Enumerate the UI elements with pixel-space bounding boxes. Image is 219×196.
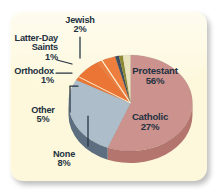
label-other-pct: 5%: [22, 115, 64, 124]
pie-chart: [0, 0, 219, 196]
label-catholic: Catholic 27%: [120, 112, 180, 132]
pie-chart-svg: [0, 0, 219, 196]
label-orthodox: Orthodox 1%: [2, 67, 54, 86]
label-protestant: Protestant 56%: [122, 66, 188, 86]
label-jewish-pct: 2%: [56, 25, 104, 34]
label-latter-day-saints: Latter-Day Saints 1%: [6, 34, 58, 62]
label-none: None 8%: [43, 150, 85, 169]
label-other: Other 5%: [22, 106, 64, 125]
figure-canvas: Jewish 2% Latter-Day Saints 1% Orthodox …: [0, 0, 219, 196]
label-orthodox-pct: 1%: [2, 76, 54, 85]
label-catholic-pct: 27%: [120, 122, 180, 132]
label-protestant-pct: 56%: [122, 76, 188, 86]
label-jewish: Jewish 2%: [56, 16, 104, 35]
label-lds-pct: 1%: [6, 53, 58, 62]
leader-latter-day-saints: [57, 60, 72, 64]
label-none-pct: 8%: [43, 159, 85, 168]
